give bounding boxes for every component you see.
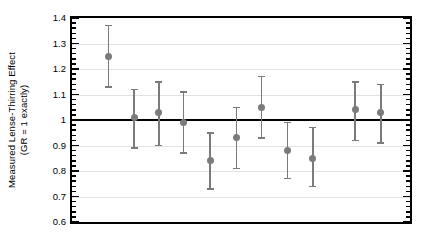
lense-thirring-errorbar-chart: Measured Lense-Thirring Effect (GR = 1 e…: [0, 0, 430, 239]
minor-tick-right: [406, 129, 410, 131]
error-bar-cap-upper: [180, 91, 187, 93]
minor-tick-right: [406, 89, 410, 91]
error-bar-cap-upper: [233, 107, 240, 109]
major-tick-left: [72, 17, 79, 19]
minor-tick-right: [406, 216, 410, 218]
minor-tick-left: [72, 135, 76, 137]
data-point-marker[interactable]: [352, 106, 359, 113]
minor-tick-left: [72, 175, 76, 177]
gridline: [72, 197, 410, 198]
y-tick-label: 1.2: [40, 64, 66, 74]
minor-tick-right: [406, 175, 410, 177]
minor-tick-left: [72, 124, 76, 126]
minor-tick-right: [406, 58, 410, 60]
data-point-marker[interactable]: [258, 104, 265, 111]
minor-tick-right: [406, 191, 410, 193]
data-point-marker[interactable]: [284, 147, 291, 154]
minor-tick-left: [72, 206, 76, 208]
minor-tick-left: [72, 216, 76, 218]
minor-tick-right: [406, 180, 410, 182]
major-tick-right: [403, 68, 410, 70]
major-tick-left: [72, 221, 79, 223]
minor-tick-right: [406, 201, 410, 203]
minor-tick-right: [406, 99, 410, 101]
gridline: [72, 95, 410, 96]
data-point-marker[interactable]: [233, 134, 240, 141]
error-bar-cap-lower: [207, 188, 214, 190]
minor-tick-left: [72, 22, 76, 24]
error-bar-cap-lower: [233, 168, 240, 170]
y-axis-title-line2: (GR = 1 exactly): [18, 52, 30, 188]
minor-tick-left: [72, 89, 76, 91]
error-bar-cap-upper: [377, 84, 384, 86]
data-point-marker[interactable]: [131, 114, 138, 121]
minor-tick-left: [72, 38, 76, 40]
minor-tick-right: [406, 27, 410, 29]
error-bar-cap-lower: [131, 147, 138, 149]
minor-tick-right: [406, 48, 410, 50]
minor-tick-right: [406, 165, 410, 167]
minor-tick-right: [406, 33, 410, 35]
minor-tick-left: [72, 48, 76, 50]
minor-tick-right: [406, 186, 410, 188]
minor-tick-right: [406, 109, 410, 111]
minor-tick-right: [406, 160, 410, 162]
data-point-marker[interactable]: [207, 157, 214, 164]
error-bar-cap-upper: [309, 127, 316, 129]
error-bar-cap-lower: [180, 152, 187, 154]
major-tick-right: [403, 221, 410, 223]
minor-tick-left: [72, 78, 76, 80]
minor-tick-right: [406, 155, 410, 157]
minor-tick-left: [72, 129, 76, 131]
y-tick-label: 0.7: [40, 192, 66, 202]
y-tick-label: 1: [40, 115, 66, 125]
y-axis-tick-labels: 1.41.31.21.110.90.80.70.6: [36, 0, 66, 239]
data-point-marker[interactable]: [105, 53, 112, 60]
gridline: [72, 171, 410, 172]
minor-tick-right: [406, 211, 410, 213]
major-tick-right: [403, 170, 410, 172]
error-bar-cap-lower: [284, 178, 291, 180]
major-tick-right: [403, 17, 410, 19]
error-bar-cap-upper: [131, 89, 138, 91]
error-bar-cap-upper: [284, 122, 291, 124]
minor-tick-right: [406, 124, 410, 126]
data-point-marker[interactable]: [180, 119, 187, 126]
major-tick-left: [72, 145, 79, 147]
minor-tick-left: [72, 114, 76, 116]
error-bar-cap-lower: [105, 86, 112, 88]
major-tick-left: [72, 196, 79, 198]
minor-tick-left: [72, 160, 76, 162]
minor-tick-left: [72, 109, 76, 111]
major-tick-left: [72, 43, 79, 45]
major-tick-right: [403, 196, 410, 198]
plot-area: [70, 16, 412, 224]
minor-tick-right: [406, 140, 410, 142]
minor-tick-right: [406, 206, 410, 208]
minor-tick-right: [406, 84, 410, 86]
minor-tick-left: [72, 150, 76, 152]
major-tick-right: [403, 43, 410, 45]
minor-tick-right: [406, 73, 410, 75]
y-tick-label: 1.1: [40, 90, 66, 100]
gridline: [72, 44, 410, 45]
minor-tick-left: [72, 53, 76, 55]
error-bar-cap-lower: [352, 140, 359, 142]
minor-tick-left: [72, 180, 76, 182]
minor-tick-left: [72, 165, 76, 167]
data-point-marker[interactable]: [155, 109, 162, 116]
minor-tick-left: [72, 84, 76, 86]
minor-tick-right: [406, 78, 410, 80]
minor-tick-left: [72, 140, 76, 142]
error-bar-cap-upper: [258, 76, 265, 78]
data-point-marker[interactable]: [377, 109, 384, 116]
minor-tick-left: [72, 33, 76, 35]
minor-tick-left: [72, 201, 76, 203]
y-tick-label: 0.9: [40, 141, 66, 151]
minor-tick-left: [72, 73, 76, 75]
y-axis-title-line1: Measured Lense-Thirring Effect: [6, 52, 18, 188]
data-point-marker[interactable]: [309, 155, 316, 162]
minor-tick-left: [72, 99, 76, 101]
error-bar-cap-upper: [155, 81, 162, 83]
minor-tick-left: [72, 58, 76, 60]
